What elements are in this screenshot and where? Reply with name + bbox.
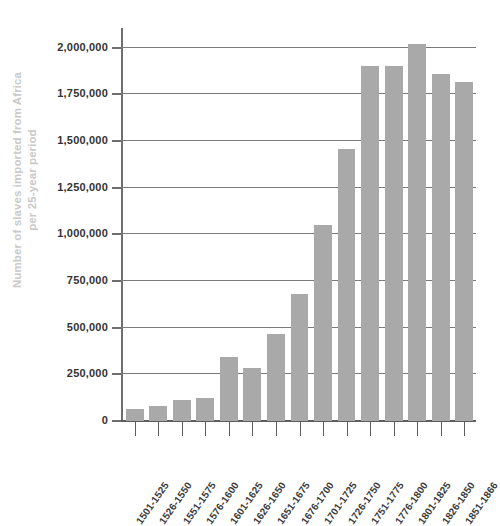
y-tick-label: 1,500,000 xyxy=(57,134,108,146)
x-tick-mark xyxy=(323,422,324,436)
y-tick-label: 750,000 xyxy=(67,274,108,286)
bar[interactable] xyxy=(196,398,214,421)
bar[interactable] xyxy=(291,294,309,421)
x-tick-mark xyxy=(205,422,206,436)
bar[interactable] xyxy=(361,66,379,421)
x-tick-mark xyxy=(464,422,465,436)
bar[interactable] xyxy=(220,357,238,421)
y-tick-mark xyxy=(112,93,121,95)
bar-slot[interactable] xyxy=(170,28,194,421)
y-tick-mark xyxy=(112,47,121,49)
x-tick-mark xyxy=(441,422,442,436)
x-tick-mark xyxy=(158,422,159,436)
y-tick-label: 2,000,000 xyxy=(57,41,108,53)
x-tick-mark xyxy=(370,422,371,436)
y-tick-mark xyxy=(112,233,121,235)
y-tick-mark xyxy=(112,373,121,375)
bar[interactable] xyxy=(149,406,167,421)
y-tick-label: 500,000 xyxy=(67,321,108,333)
bar[interactable] xyxy=(173,400,191,421)
bar[interactable] xyxy=(408,44,426,421)
bar-slot[interactable] xyxy=(288,28,312,421)
bar[interactable] xyxy=(314,225,332,421)
bar-slot[interactable] xyxy=(194,28,218,421)
y-axis-title-line1: Number of slaves imported from Africa xyxy=(10,72,25,288)
bar-slot[interactable] xyxy=(335,28,359,421)
bar[interactable] xyxy=(338,149,356,421)
bar[interactable] xyxy=(243,368,261,421)
bar-slot[interactable] xyxy=(405,28,429,421)
bars-layer xyxy=(123,28,476,421)
title-fragment xyxy=(150,0,360,5)
y-tick-label: 1,000,000 xyxy=(57,227,108,239)
bar[interactable] xyxy=(385,66,403,421)
y-tick-label: 250,000 xyxy=(67,367,108,379)
x-tick-mark xyxy=(394,422,395,436)
bar-slot[interactable] xyxy=(264,28,288,421)
bar-slot[interactable] xyxy=(241,28,265,421)
y-tick-mark xyxy=(112,187,121,189)
plot-area: 0250,000500,000750,0001,000,0001,250,000… xyxy=(121,28,476,422)
x-tick-mark xyxy=(276,422,277,436)
y-axis-title: Number of slaves imported from Africa pe… xyxy=(6,10,44,350)
y-tick-mark xyxy=(112,327,121,329)
bar-slot[interactable] xyxy=(358,28,382,421)
bar-slot[interactable] xyxy=(311,28,335,421)
x-tick-mark xyxy=(182,422,183,436)
x-tick-mark xyxy=(300,422,301,436)
bar[interactable] xyxy=(455,82,473,421)
y-tick-mark xyxy=(112,140,121,142)
y-tick-label: 1,750,000 xyxy=(57,87,108,99)
bar-slot[interactable] xyxy=(123,28,147,421)
bar-slot[interactable] xyxy=(382,28,406,421)
y-tick-mark xyxy=(112,280,121,282)
x-tick-mark xyxy=(252,422,253,436)
bar[interactable] xyxy=(267,334,285,421)
y-axis-title-line2: per 25-year period xyxy=(25,72,40,288)
bar-slot[interactable] xyxy=(452,28,476,421)
x-tick-mark xyxy=(135,422,136,436)
bar[interactable] xyxy=(432,74,450,421)
bar-slot[interactable] xyxy=(217,28,241,421)
bar[interactable] xyxy=(126,409,144,421)
y-tick-label: 0 xyxy=(102,414,108,426)
x-tick-mark xyxy=(347,422,348,436)
y-tick-label: 1,250,000 xyxy=(57,181,108,193)
y-tick-mark xyxy=(112,420,121,422)
bar-slot[interactable] xyxy=(429,28,453,421)
x-tick-mark xyxy=(417,422,418,436)
x-tick-mark xyxy=(229,422,230,436)
bar-slot[interactable] xyxy=(147,28,171,421)
